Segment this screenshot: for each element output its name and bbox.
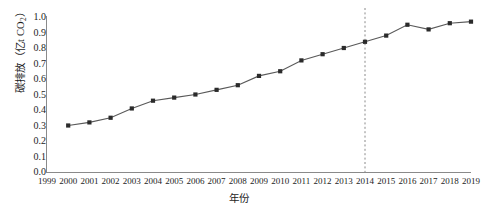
data-point-marker [151,99,155,103]
x-axis-title: 年份 [0,190,477,205]
y-axis-tick: 0.4 [22,105,46,115]
y-axis-tick: 0.6 [22,74,46,84]
x-axis-tick-labels: 1999200020012002200320042005200620072008… [0,175,477,189]
data-point-marker [448,21,452,25]
plot-area [47,17,471,172]
data-point-marker [172,96,176,100]
y-axis-tick: 0.7 [22,59,46,69]
data-point-marker [87,120,91,124]
data-point-marker [257,74,261,78]
y-axis-tick: 0.9 [22,28,46,38]
emission-line [68,22,471,126]
series-svg [47,17,471,172]
y-axis-tick: 1.0 [22,12,46,22]
y-axis-tick: 0.5 [22,90,46,100]
y-axis-tick: 0.3 [22,121,46,131]
data-point-marker [363,40,367,44]
y-axis-tick: 0.2 [22,136,46,146]
data-point-marker [299,58,303,62]
data-point-marker [384,34,388,38]
x-axis-line [46,172,471,173]
data-point-marker [236,83,240,87]
data-point-marker [130,106,134,110]
y-axis-tick: 0.8 [22,43,46,53]
data-point-marker [427,27,431,31]
y-axis-tick: 0.1 [22,152,46,162]
data-point-marker [278,69,282,73]
data-point-marker [66,123,70,127]
data-point-marker [405,23,409,27]
data-point-marker [321,52,325,56]
data-point-marker [193,92,197,96]
data-point-marker [215,88,219,92]
data-point-marker [342,46,346,50]
x-axis-tick: 2019 [454,175,485,187]
data-point-marker [109,116,113,120]
data-point-marker [469,20,473,24]
